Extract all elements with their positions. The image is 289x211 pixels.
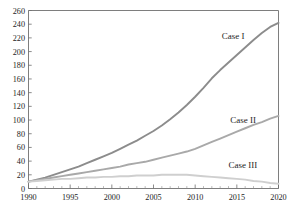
y-tick-label: 80: [17, 130, 25, 139]
series-label-case-iii: Case III: [229, 160, 258, 170]
x-tick-label: 2010: [187, 193, 203, 202]
y-tick-label: 120: [13, 102, 25, 111]
y-tick-label: 140: [13, 89, 25, 98]
y-tick-label: 220: [13, 34, 25, 43]
y-axis-tick-labels: 020406080100120140160180200220240260: [13, 7, 25, 194]
y-tick-label: 260: [13, 7, 25, 16]
y-tick-label: 200: [13, 48, 25, 57]
series-label-case-ii: Case II: [230, 115, 256, 125]
x-tick-label: 1995: [62, 193, 78, 202]
x-tick-label: 2000: [104, 193, 120, 202]
y-tick-label: 100: [13, 116, 25, 125]
y-tick-label: 180: [13, 61, 25, 70]
y-tick-label: 160: [13, 75, 25, 84]
line-chart: ​ 020406080100120140160180200220240260 1…: [0, 0, 289, 211]
series-label-case-i: Case I: [222, 31, 245, 41]
x-axis-ticks: [29, 185, 279, 189]
y-axis-ticks: [29, 11, 32, 189]
x-tick-label: 1990: [20, 193, 36, 202]
y-tick-label: 40: [17, 157, 25, 166]
y-tick-label: 240: [13, 20, 25, 29]
chart-canvas: 020406080100120140160180200220240260 199…: [0, 0, 289, 211]
y-tick-label: 20: [17, 171, 25, 180]
x-tick-label: 2020: [270, 193, 286, 202]
y-tick-label: 60: [17, 143, 25, 152]
x-axis-tick-labels: 1990199520002005201020152020: [20, 193, 286, 202]
x-tick-label: 2015: [229, 193, 245, 202]
series-line-case-i: [29, 23, 279, 182]
x-tick-label: 2005: [145, 193, 161, 202]
series-line-case-ii: [29, 116, 279, 182]
